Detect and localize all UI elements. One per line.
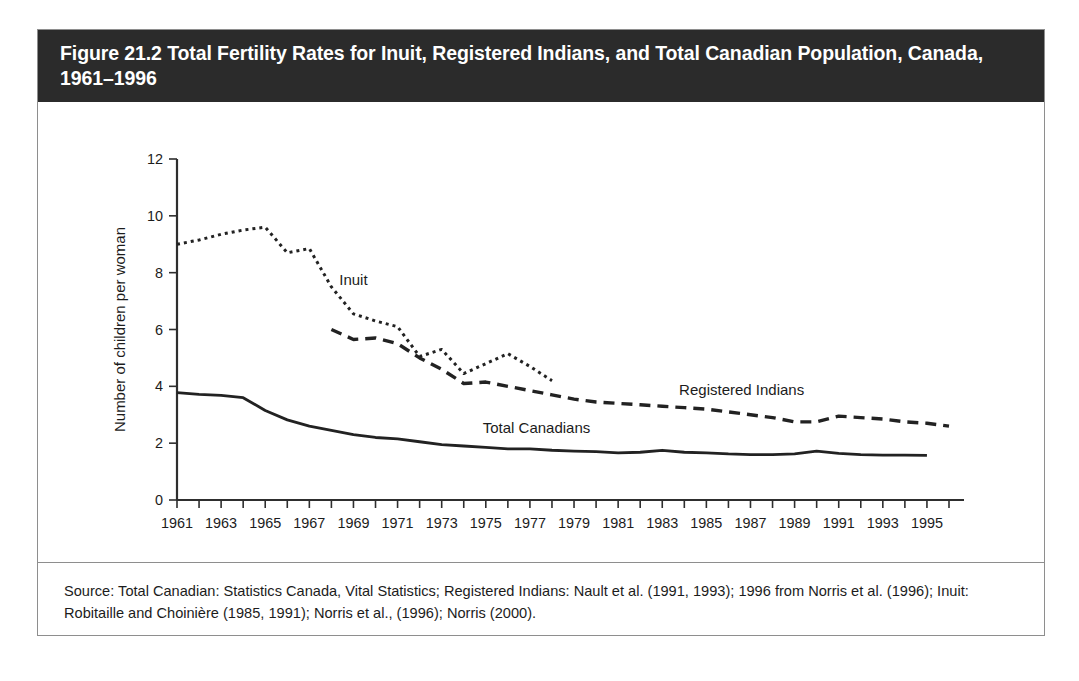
x-tick-label: 1977 bbox=[514, 515, 546, 531]
series-label-inuit: Inuit bbox=[339, 271, 368, 288]
y-tick-label: 10 bbox=[147, 208, 163, 224]
x-tick-label: 1983 bbox=[646, 515, 678, 531]
y-tick-label: 0 bbox=[155, 492, 163, 508]
x-tick-label: 1973 bbox=[426, 515, 458, 531]
series-registered-indians bbox=[331, 330, 949, 427]
figure-title-bar: Figure 21.2 Total Fertility Rates for In… bbox=[38, 30, 1044, 102]
x-tick-label: 1989 bbox=[779, 515, 811, 531]
y-axis-title: Number of children per woman bbox=[111, 227, 128, 432]
y-tick-label: 4 bbox=[155, 378, 163, 394]
x-tick-label: 1965 bbox=[249, 515, 281, 531]
x-tick-label: 1971 bbox=[382, 515, 414, 531]
series-inuit bbox=[177, 227, 552, 380]
figure-title: Figure 21.2 Total Fertility Rates for In… bbox=[60, 41, 1026, 91]
figure-container: Figure 21.2 Total Fertility Rates for In… bbox=[37, 29, 1045, 636]
x-tick-label: 1967 bbox=[293, 515, 325, 531]
y-tick-label: 6 bbox=[155, 322, 163, 338]
series-label-registered-indians: Registered Indians bbox=[679, 381, 804, 398]
x-tick-label: 1961 bbox=[161, 515, 193, 531]
fertility-rate-line-chart: 024681012Number of children per woman196… bbox=[38, 102, 1044, 562]
x-tick-label: 1995 bbox=[911, 515, 943, 531]
source-note-area: Source: Total Canadian: Statistics Canad… bbox=[38, 562, 1044, 636]
chart-plot-area: 024681012Number of children per woman196… bbox=[38, 102, 1044, 562]
x-tick-label: 1987 bbox=[734, 515, 766, 531]
x-tick-label: 1981 bbox=[602, 515, 634, 531]
x-tick-label: 1993 bbox=[867, 515, 899, 531]
x-tick-label: 1985 bbox=[690, 515, 722, 531]
x-tick-label: 1991 bbox=[823, 515, 855, 531]
y-tick-label: 8 bbox=[155, 265, 163, 281]
source-note: Source: Total Canadian: Statistics Canad… bbox=[64, 580, 1018, 624]
y-tick-label: 12 bbox=[147, 151, 163, 167]
y-tick-label: 2 bbox=[155, 435, 163, 451]
x-tick-label: 1975 bbox=[470, 515, 502, 531]
x-tick-label: 1963 bbox=[205, 515, 237, 531]
series-label-total-canadians: Total Canadians bbox=[483, 419, 591, 436]
x-tick-label: 1969 bbox=[337, 515, 369, 531]
x-tick-label: 1979 bbox=[558, 515, 590, 531]
